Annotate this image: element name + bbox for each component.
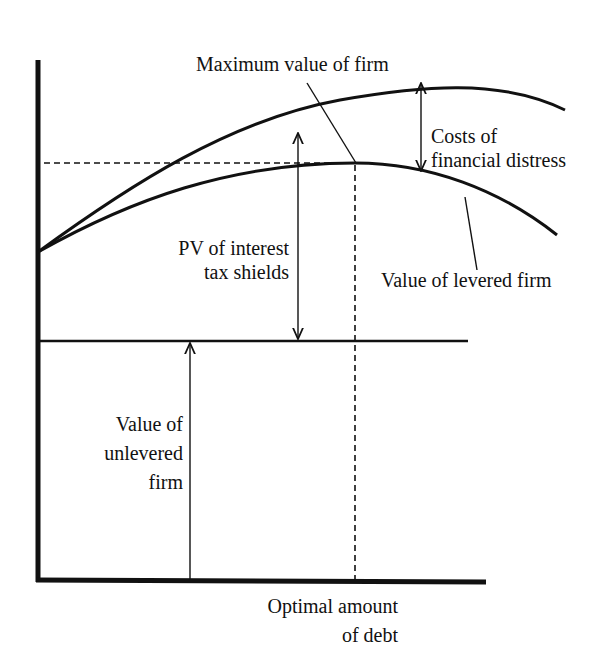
label-costs-distress-line2: financial distress [431,148,566,172]
tradeoff-diagram: Maximum value of firm Costs of financial… [0,0,611,661]
label-levered-firm: Value of levered firm [381,268,551,292]
label-optimal-debt: Optimal amount of debt [267,592,398,650]
label-optimal-line2: of debt [267,621,398,650]
diagram-canvas [0,0,611,661]
label-unlevered-firm: Value of unlevered firm [104,410,183,497]
label-max-value: Maximum value of firm [196,52,389,76]
label-costs-distress: Costs of financial distress [431,124,566,172]
x-axis [36,580,486,582]
label-unlevered-line1: Value of [104,410,183,439]
label-pv-tax-shields: PV of interest tax shields [178,236,289,284]
label-optimal-line1: Optimal amount [267,592,398,621]
label-costs-distress-line1: Costs of [431,124,566,148]
label-unlevered-line2: unlevered [104,439,183,468]
label-pv-tax-line1: PV of interest [178,236,289,260]
levered-firm-leader [465,197,477,270]
label-pv-tax-line2: tax shields [178,260,289,284]
max-value-leader [307,83,356,163]
label-unlevered-line3: firm [104,468,183,497]
